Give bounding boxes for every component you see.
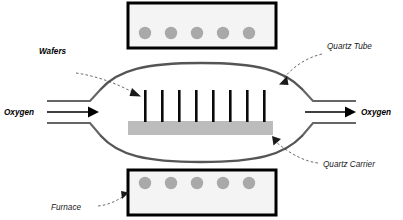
wafer-bar: [178, 90, 181, 122]
inlet-pipe-upper-wall: [47, 89, 101, 101]
wafer-bar: [229, 90, 232, 122]
quartz-tube-upper-wall: [101, 63, 302, 89]
quartz-carrier-leader-arrowhead-icon: [272, 136, 281, 146]
top-furnace-block: [128, 3, 276, 48]
quartz-carrier-callout: Quartz Carrier: [272, 136, 375, 169]
quartz-carrier-label: Quartz Carrier: [323, 160, 375, 169]
outlet-pipe-upper-wall: [302, 89, 356, 101]
heating-coil-icon: [217, 27, 229, 39]
quartz-tube-leader-line: [283, 54, 322, 79]
wafer-bar: [246, 90, 249, 122]
furnace-leader-line: [98, 195, 125, 206]
oxidation-furnace-diagram: Wafers Quartz Tube Quartz Carrier Furnac…: [0, 0, 403, 220]
bottom-furnace-block: [128, 170, 276, 215]
wafers-label: Wafers: [39, 47, 67, 56]
wafer-bar: [263, 90, 266, 122]
wafer-bar: [161, 90, 164, 122]
oxygen-outlet-pipe: [302, 89, 356, 136]
oxygen-outlet-label: Oxygen: [361, 108, 391, 117]
furnace-callout: Furnace: [51, 191, 129, 212]
heating-coil-icon: [139, 177, 151, 189]
inlet-pipe-lower-wall: [47, 123, 101, 136]
wafers-leader-arrowhead-icon: [130, 88, 142, 97]
wafer-bar: [195, 90, 198, 122]
furnace-label: Furnace: [51, 203, 81, 212]
wafer-bar: [212, 90, 215, 122]
quartz-carrier-slab: [128, 121, 273, 135]
heating-coil-icon: [191, 27, 203, 39]
quartz-tube-lower-wall: [101, 136, 302, 162]
wafers-leader-line: [76, 73, 134, 93]
wafer-bar: [144, 90, 147, 122]
quartz-tube-label: Quartz Tube: [327, 42, 372, 51]
heating-coil-icon: [165, 177, 177, 189]
heating-coil-icon: [165, 27, 177, 39]
heating-coil-icon: [243, 27, 255, 39]
heating-coil-icon: [191, 177, 203, 189]
inlet-flow-arrow-icon: [47, 107, 99, 118]
outlet-flow-arrow-icon: [305, 107, 356, 118]
quartz-tube-leader-arrowhead-icon: [279, 76, 289, 85]
heating-coil-icon: [139, 27, 151, 39]
oxygen-inlet-pipe: [47, 89, 101, 136]
quartz-carrier-leader-line: [276, 142, 318, 163]
furnace-diagram-canvas: Wafers Quartz Tube Quartz Carrier Furnac…: [0, 0, 403, 220]
bottom-furnace-housing: [128, 170, 276, 215]
heating-coil-icon: [243, 177, 255, 189]
heating-coil-icon: [217, 177, 229, 189]
outlet-pipe-lower-wall: [302, 123, 356, 136]
wafer-stack: [144, 90, 266, 122]
quartz-tube-chamber: [101, 63, 302, 162]
oxygen-inlet-label: Oxygen: [4, 108, 34, 117]
top-furnace-housing: [128, 3, 276, 48]
quartz-tube-callout: Quartz Tube: [279, 42, 372, 85]
